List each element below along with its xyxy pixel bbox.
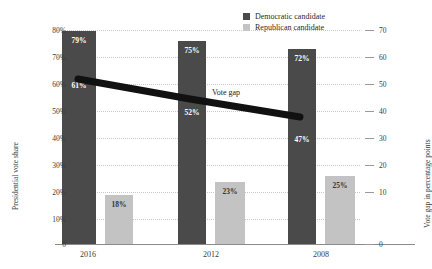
y-axis-left-title: Presidential vote share <box>11 142 20 210</box>
legend-swatch-icon-democratic <box>243 13 250 20</box>
y-right-tick-mark-10 <box>365 192 374 193</box>
y-right-tick-mark-20 <box>365 165 374 166</box>
y-tick-label-0: 0 <box>32 240 66 249</box>
y-right-tick-label-70: 70 <box>379 26 387 35</box>
bar-value-democratic-2012: 75% <box>178 46 206 55</box>
bar-democratic-2008: 72% <box>288 49 316 244</box>
y-right-tick-label-20: 20 <box>379 161 387 170</box>
y-right-tick-mark-40 <box>365 111 374 112</box>
y-tick-label-80: 80% <box>32 26 66 35</box>
bar-value-republican-2016: 18% <box>105 200 133 209</box>
y-right-tick-label-30: 30 <box>379 134 387 143</box>
y-tick-label-50: 50% <box>32 107 66 116</box>
y-right-tick-mark-70 <box>365 30 374 31</box>
y-right-tick-mark-50 <box>365 84 374 85</box>
y-tick-label-40: 40% <box>32 134 66 143</box>
y-right-tick-label-50: 50 <box>379 80 387 89</box>
y-tick-label-70: 70% <box>32 53 66 62</box>
y-right-tick-label-60: 60 <box>379 53 387 62</box>
x-tick-label-2008: 2008 <box>286 250 356 259</box>
bar-republican-2012: 23% <box>215 182 245 244</box>
gap-value-2016: 61% <box>62 81 96 90</box>
y-right-tick-mark-60 <box>365 57 374 58</box>
legend-item-democratic: Democratic candidate <box>243 12 325 21</box>
x-tick-label-2012: 2012 <box>176 250 246 259</box>
legend-label-democratic: Democratic candidate <box>255 12 325 21</box>
gap-value-2008: 47% <box>288 135 316 144</box>
bar-value-republican-2008: 25% <box>325 181 355 190</box>
y-tick-label-10: 10% <box>32 215 66 224</box>
gridline-80 <box>57 30 360 31</box>
y-right-tick-mark-0 <box>365 244 374 245</box>
gap-value-2012: 52% <box>178 108 206 117</box>
y-right-tick-label-10: 10 <box>379 188 387 197</box>
bar-value-democratic-2008: 72% <box>288 54 316 63</box>
y-tick-label-20: 20% <box>32 188 66 197</box>
y-right-tick-label-0: 0 <box>379 240 383 249</box>
y-axis-right-title: Vote gap in percentage points <box>423 139 432 228</box>
vote-gap-annotation: Vote gap <box>212 88 240 97</box>
y-tick-label-30: 30% <box>32 161 66 170</box>
bar-value-republican-2012: 23% <box>215 187 245 196</box>
y-right-tick-mark-30 <box>365 138 374 139</box>
plot-area: 79% 18% 75% 23% 72% 25% 61% 52% 47% <box>57 28 360 244</box>
bar-democratic-2012: 75% <box>178 41 206 244</box>
x-axis-baseline <box>55 244 415 245</box>
bar-value-democratic-2016: 79% <box>62 36 96 45</box>
y-tick-label-60: 60% <box>32 80 66 89</box>
x-tick-label-2016: 2016 <box>53 250 123 259</box>
bar-republican-2008: 25% <box>325 176 355 244</box>
bar-republican-2016: 18% <box>105 195 133 244</box>
y-right-tick-label-40: 40 <box>379 107 387 116</box>
bar-democratic-2016: 79% <box>62 31 96 244</box>
